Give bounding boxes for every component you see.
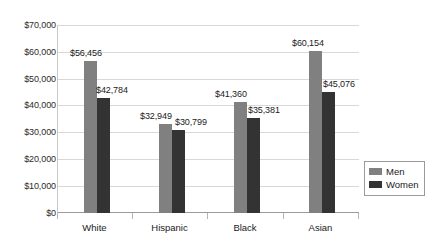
category-tick: [358, 213, 359, 219]
legend-swatch-men-icon: [369, 168, 382, 175]
bar-value-men-black: $41,360: [215, 90, 247, 99]
bar-women-hispanic[interactable]: [172, 130, 185, 213]
bar-women-asian[interactable]: [322, 92, 335, 213]
bar-value-men-white: $56,456: [70, 49, 102, 58]
y-axis-tick-label: $30,000: [2, 128, 56, 137]
category-tick: [207, 213, 208, 219]
y-axis-tick-label: $50,000: [2, 75, 56, 84]
legend-item-men[interactable]: Men: [369, 165, 420, 178]
y-axis-tick-label: $70,000: [2, 21, 56, 30]
category-label-black: Black: [207, 223, 283, 233]
bar-men-white[interactable]: [84, 61, 97, 213]
bar-value-men-asian: $60,154: [292, 39, 324, 48]
plot-area: $56,456 $42,784 $32,949 $30,799 $41,360 …: [57, 25, 358, 213]
category-tick: [283, 213, 284, 219]
gridline: [58, 25, 359, 26]
bar-women-white[interactable]: [97, 98, 110, 213]
bar-value-women-black: $35,381: [248, 106, 280, 115]
category-label-hispanic: Hispanic: [132, 223, 207, 233]
category-label-asian: Asian: [283, 223, 358, 233]
category-tick: [132, 213, 133, 219]
category-tick: [57, 213, 58, 219]
bar-men-black[interactable]: [234, 102, 247, 213]
bar-men-hispanic[interactable]: [159, 124, 172, 213]
y-axis-tick-label: $60,000: [2, 48, 56, 57]
legend-label-women: Women: [386, 180, 419, 190]
legend-item-women[interactable]: Women: [369, 178, 420, 191]
y-axis-tick-label: $20,000: [2, 155, 56, 164]
bar-value-women-white: $42,784: [96, 86, 128, 95]
bar-men-asian[interactable]: [309, 51, 322, 213]
bar-chart: $70,000 $60,000 $50,000 $40,000 $30,000 …: [0, 0, 438, 245]
legend-swatch-women-icon: [369, 181, 382, 188]
y-axis-tick-label: $40,000: [2, 101, 56, 110]
chart-legend: Men Women: [364, 161, 425, 196]
bar-value-men-hispanic: $32,949: [140, 112, 172, 121]
y-axis-tick-label: $10,000: [2, 182, 56, 191]
bar-value-women-hispanic: $30,799: [175, 118, 207, 127]
category-label-white: White: [57, 223, 132, 233]
bar-women-black[interactable]: [247, 118, 260, 213]
bar-value-women-asian: $45,076: [323, 80, 355, 89]
legend-label-men: Men: [386, 167, 404, 177]
y-axis-tick-label: $0: [2, 209, 56, 218]
